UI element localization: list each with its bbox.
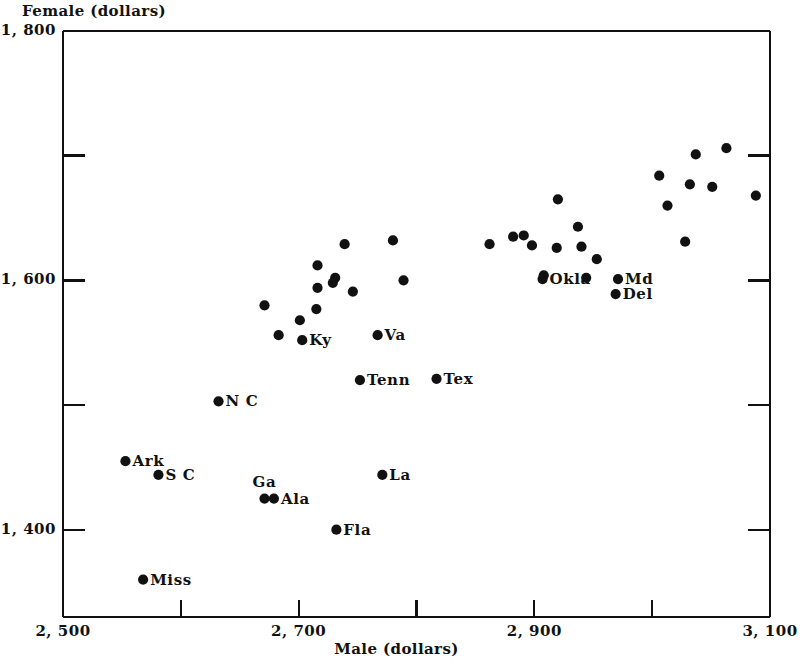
point-label-ga: Ga xyxy=(252,473,276,491)
point-label-fla: Fla xyxy=(343,521,371,539)
data-point xyxy=(553,194,563,204)
data-point xyxy=(654,171,664,181)
y-tick-label: 1, 600 xyxy=(0,270,56,288)
data-point xyxy=(377,470,387,480)
data-point xyxy=(340,239,350,249)
data-point xyxy=(721,143,731,153)
point-label-va: Va xyxy=(385,326,406,344)
data-point xyxy=(707,182,717,192)
data-point xyxy=(330,273,340,283)
point-label-tex: Tex xyxy=(444,370,474,388)
data-point xyxy=(312,283,322,293)
data-point xyxy=(213,396,223,406)
y-tick-label: 1, 400 xyxy=(0,520,56,538)
data-point xyxy=(431,374,441,384)
data-point xyxy=(269,493,279,503)
data-point xyxy=(138,574,148,584)
data-point xyxy=(552,243,562,253)
data-point xyxy=(312,260,322,270)
data-point xyxy=(259,300,269,310)
data-point xyxy=(611,289,621,299)
data-point xyxy=(311,304,321,314)
y-tick-label: 1, 800 xyxy=(0,21,56,39)
data-point xyxy=(539,270,549,280)
data-point xyxy=(508,232,518,242)
axis-frame xyxy=(63,31,770,617)
x-tick-label: 2, 700 xyxy=(229,622,369,640)
tick-marks xyxy=(63,156,770,617)
data-point xyxy=(527,240,537,250)
x-tick-label: 2, 500 xyxy=(0,622,133,640)
data-point xyxy=(355,375,365,385)
data-point xyxy=(484,239,494,249)
data-point xyxy=(331,525,341,535)
data-point xyxy=(685,179,695,189)
point-label-n-c: N C xyxy=(226,392,259,410)
point-label-del: Del xyxy=(623,285,653,303)
point-label-s-c: S C xyxy=(165,466,195,484)
data-point xyxy=(120,456,130,466)
point-label-tenn: Tenn xyxy=(367,371,410,389)
data-point xyxy=(613,274,623,284)
point-label-la: La xyxy=(389,466,410,484)
data-point xyxy=(153,470,163,480)
point-label-miss: Miss xyxy=(150,571,192,589)
data-point xyxy=(373,330,383,340)
data-point xyxy=(680,237,690,247)
data-point xyxy=(751,190,761,200)
point-label-ark: Ark xyxy=(132,452,164,470)
data-points xyxy=(120,143,761,585)
data-point xyxy=(592,254,602,264)
data-point xyxy=(662,200,672,210)
data-point xyxy=(691,149,701,159)
point-label-okla: Okla xyxy=(550,270,591,288)
data-point xyxy=(398,275,408,285)
x-tick-label: 3, 100 xyxy=(700,622,802,640)
data-point xyxy=(388,235,398,245)
x-axis-title: Male (dollars) xyxy=(0,640,793,658)
data-point xyxy=(259,493,269,503)
data-point xyxy=(348,286,358,296)
data-point xyxy=(274,330,284,340)
data-point xyxy=(573,222,583,232)
data-point xyxy=(519,230,529,240)
point-label-ky: Ky xyxy=(309,331,331,349)
data-point xyxy=(297,335,307,345)
data-point xyxy=(576,242,586,252)
point-label-ala: Ala xyxy=(281,490,310,508)
x-tick-label: 2, 900 xyxy=(464,622,604,640)
data-point xyxy=(295,315,305,325)
